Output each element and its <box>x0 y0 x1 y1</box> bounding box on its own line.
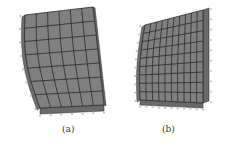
node-marker <box>183 107 185 109</box>
node-marker <box>164 107 166 109</box>
node-marker <box>139 105 141 107</box>
node-marker <box>136 50 138 52</box>
node-marker <box>170 107 172 109</box>
node-marker <box>134 75 136 77</box>
node-marker <box>202 108 204 110</box>
node-marker <box>210 101 212 103</box>
node-marker <box>139 25 141 27</box>
node-marker <box>210 39 212 41</box>
node-marker <box>210 91 212 93</box>
node-marker <box>138 33 140 35</box>
node-marker <box>135 58 137 60</box>
node-marker <box>71 113 73 115</box>
node-marker <box>25 81 27 83</box>
node-marker <box>210 29 212 31</box>
node-marker <box>134 91 136 93</box>
caption-b: (b) <box>162 124 175 134</box>
node-marker <box>189 108 191 110</box>
node-marker <box>19 28 21 30</box>
caption-a: (a) <box>62 124 74 134</box>
mesh-canvas <box>0 0 228 147</box>
node-marker <box>210 18 212 20</box>
node-marker <box>158 106 160 108</box>
node-marker <box>22 68 24 70</box>
mesh-side-face <box>203 8 209 103</box>
node-marker <box>210 60 212 62</box>
node-marker <box>137 41 139 43</box>
node-marker <box>210 49 212 51</box>
node-marker <box>49 114 51 116</box>
node-marker <box>134 66 136 68</box>
node-marker <box>210 70 212 72</box>
node-marker <box>151 106 153 108</box>
node-marker <box>81 112 83 114</box>
node-marker <box>34 108 36 110</box>
node-marker <box>210 80 212 82</box>
node-marker <box>196 108 198 110</box>
node-marker <box>39 114 41 116</box>
node-marker <box>20 55 22 57</box>
node-marker <box>30 95 32 97</box>
node-marker <box>134 83 136 85</box>
node-marker <box>103 111 105 113</box>
node-marker <box>60 113 62 115</box>
node-marker <box>177 107 179 109</box>
node-marker <box>19 41 21 43</box>
node-marker <box>145 106 147 108</box>
node-marker <box>134 100 136 102</box>
node-marker <box>92 112 94 114</box>
node-marker <box>210 8 212 10</box>
node-marker <box>19 15 21 17</box>
